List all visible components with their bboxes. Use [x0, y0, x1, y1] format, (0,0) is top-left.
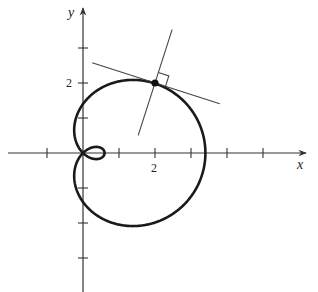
polar-curve-figure: x y 2 2: [0, 0, 318, 292]
axes: [8, 8, 306, 292]
x-axis-label: x: [296, 157, 304, 172]
point-marker: [151, 79, 158, 86]
plot-svg: x y 2 2: [0, 0, 318, 292]
y-axis-label: y: [66, 5, 75, 20]
y-tick-label-2: 2: [66, 76, 72, 90]
x-tick-label-2: 2: [151, 161, 157, 175]
